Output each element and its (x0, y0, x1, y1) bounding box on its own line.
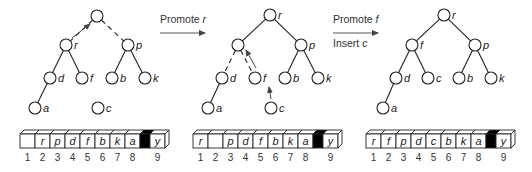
array-index: 2 (40, 152, 46, 163)
node-circle-icon (44, 72, 56, 84)
array-index: 8 (303, 152, 309, 163)
array-index: 4 (70, 152, 76, 163)
array-index: 4 (243, 152, 249, 163)
node-circle-icon (92, 102, 104, 114)
node-circle-icon (422, 72, 434, 84)
cell-value: k (115, 135, 121, 147)
array-index: 9 (155, 152, 161, 163)
node-label: r (278, 9, 283, 21)
node-circle-icon (60, 39, 72, 51)
node-circle-icon (438, 9, 450, 21)
array-index: 1 (371, 152, 377, 163)
node-label: a (216, 102, 222, 114)
tree-edge (131, 50, 143, 72)
transition-promote-r: Promote r (160, 13, 207, 33)
heap-array: rpdfbkay123456789 (193, 130, 342, 163)
tree-node-c: c (422, 72, 442, 84)
node-circle-icon (312, 72, 324, 84)
node-label: d (404, 72, 411, 84)
tree-node-k: k (139, 72, 159, 84)
cell-value: d (69, 135, 76, 147)
array-cell-last: y (150, 130, 169, 148)
node-circle-icon (265, 102, 277, 114)
tree-edge (288, 50, 299, 72)
array-index: 5 (85, 152, 91, 163)
tree-edge (462, 50, 473, 72)
transition-promote-f-insert-c: Promote f Insert c (333, 13, 380, 49)
node-circle-icon (29, 102, 41, 114)
array-index: 7 (288, 152, 294, 163)
node-label: a (391, 102, 397, 114)
array-index: 3 (228, 152, 234, 163)
tree-edge (415, 50, 426, 72)
node-circle-icon (76, 72, 88, 84)
array-index: 1 (25, 152, 31, 163)
node-label: p (308, 39, 315, 51)
tree-node-d: d (216, 72, 237, 84)
node-circle-icon (202, 102, 214, 114)
array-index: 6 (273, 152, 279, 163)
node-circle-icon (453, 72, 465, 84)
node-label: b (120, 72, 126, 84)
node-label: r (74, 39, 79, 51)
node-label: c (436, 72, 442, 84)
array-index: 5 (431, 152, 437, 163)
cell-value: k (288, 135, 294, 147)
node-circle-icon (377, 102, 389, 114)
move-arrow-icon (246, 50, 256, 68)
array-index: 8 (476, 152, 482, 163)
tree-node-r: r (264, 9, 283, 21)
tree-node-c: c (265, 102, 285, 114)
node-label: k (499, 72, 505, 84)
heap-array: rfpdcbkay123456789 (366, 130, 515, 163)
array-index: 6 (446, 152, 452, 163)
node-label: k (153, 72, 159, 84)
array-index: 7 (461, 152, 467, 163)
array-index: 9 (501, 152, 507, 163)
node-label: k (326, 72, 332, 84)
panel-1: rpdfbkacrpdfbkay123456789 (20, 10, 169, 163)
move-arrow-icon (269, 87, 271, 99)
tree-edge (274, 19, 296, 41)
tree-edge (69, 50, 80, 72)
node-circle-icon (106, 72, 118, 84)
node-label: p (482, 39, 489, 51)
array-index: 5 (258, 152, 264, 163)
cell-value: p (226, 135, 233, 147)
transition-sublabel: Insert c (333, 37, 368, 49)
tree-node-r: r (438, 9, 457, 21)
cell-value: k (461, 135, 467, 147)
tree-node-b: b (106, 72, 126, 84)
node-circle-icon (122, 39, 134, 51)
cell-value: p (53, 135, 60, 147)
cell-value: d (415, 135, 422, 147)
cell-value: a (302, 135, 308, 147)
array-index: 9 (328, 152, 334, 163)
array-cell-last: y (323, 130, 342, 148)
cell-value: c (431, 135, 437, 147)
node-circle-icon (485, 72, 497, 84)
tree-node-f: f (249, 72, 267, 84)
array-index: 8 (130, 152, 136, 163)
node-circle-icon (249, 72, 261, 84)
tree-node-a: a (29, 102, 49, 114)
node-label: r (452, 9, 457, 21)
node-label: f (420, 39, 424, 51)
tree-edge (478, 50, 489, 72)
array-index: 2 (386, 152, 392, 163)
node-label: f (90, 72, 94, 84)
tree-node-f: f (406, 39, 424, 51)
heap-promotion-diagram: Promote r Promote f Insert c rpdfbkacrpd… (0, 0, 532, 172)
node-circle-icon (279, 72, 291, 84)
cell-value: b (445, 135, 451, 147)
tree-node-empty (91, 10, 103, 22)
tree-edge (211, 83, 220, 102)
tree-edge (385, 84, 393, 103)
node-circle-icon (406, 39, 418, 51)
node-circle-icon (91, 10, 103, 22)
node-label: b (293, 72, 299, 84)
transition-label: Promote r (160, 13, 207, 25)
node-label: a (43, 102, 49, 114)
tree-edge (101, 20, 123, 41)
node-circle-icon (139, 72, 151, 84)
